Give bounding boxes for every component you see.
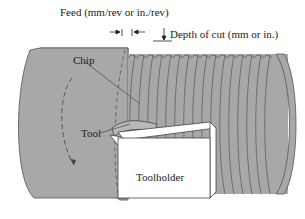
chip-label: Chip [73,55,94,66]
feed-label: Feed (mm/rev or in./rev) [60,7,169,18]
toolholder [118,138,210,198]
workpiece-left [18,48,128,198]
tool-label: Tool [81,128,101,139]
feed-indicator [110,29,145,36]
toolholder-label: Toolholder [136,172,184,183]
depth-label: Depth of cut (mm or in.) [170,29,278,40]
